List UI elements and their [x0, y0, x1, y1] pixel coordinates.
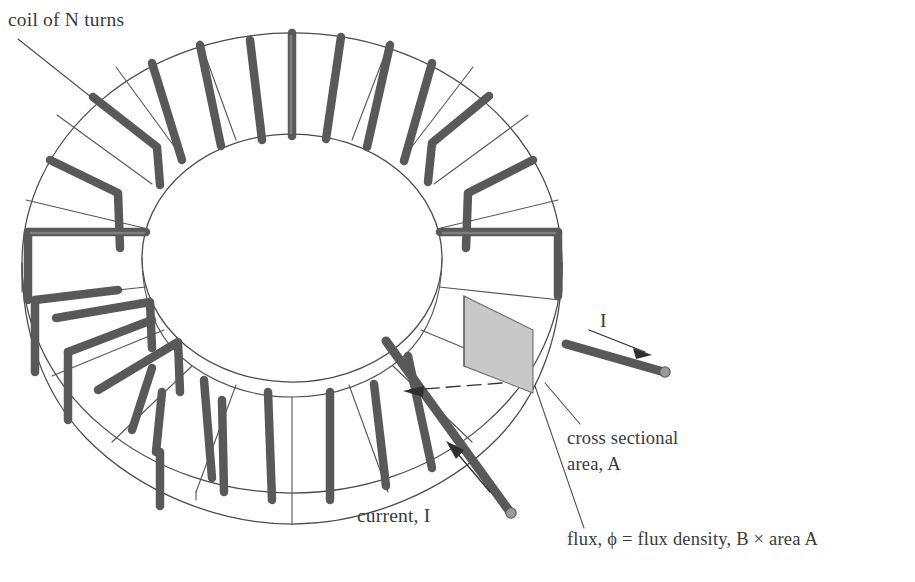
coil-winding	[28, 33, 558, 506]
label-current-lead: current, I	[357, 505, 430, 526]
leader-lines	[18, 39, 584, 528]
toroid-diagram: coil of N turns I current, I cross secti…	[0, 0, 915, 582]
label-current-right: I	[600, 310, 607, 331]
current-lead-out	[566, 344, 670, 377]
label-flux-equation: flux, ϕ = flux density, B × area A	[567, 529, 818, 549]
label-coil-of-n-turns: coil of N turns	[8, 9, 124, 30]
cross-sectional-area	[464, 296, 533, 393]
label-cross-sectional-line1: cross sectional	[567, 428, 678, 448]
leader-cross-section	[545, 383, 580, 424]
label-cross-sectional-line2: area, A	[567, 454, 621, 474]
leader-coil	[18, 39, 96, 101]
